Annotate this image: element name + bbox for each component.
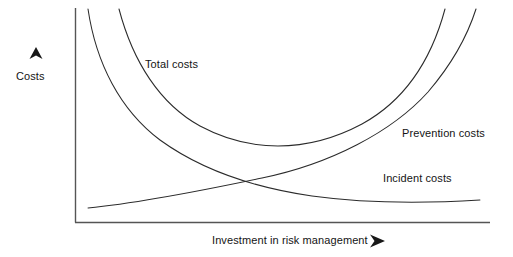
series-label-total-costs: Total costs [145,58,198,71]
series-label-prevention-costs: Prevention costs [402,127,485,140]
arrow-right-icon [370,235,385,248]
y-axis-label: Costs [16,70,45,83]
series-line-total-costs [119,9,445,146]
series-label-incident-costs: Incident costs [383,172,452,185]
x-axis-label: Investment in risk management [212,234,368,247]
arrow-up-icon [30,47,43,59]
risk-management-cost-chart: Costs Investment in risk management Tota… [0,0,513,257]
